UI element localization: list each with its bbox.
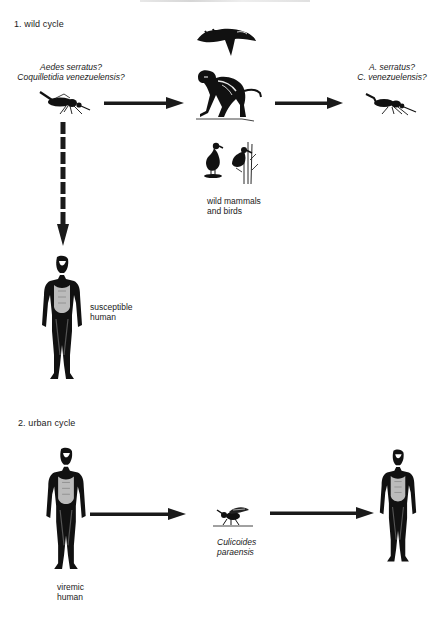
human-figure-icon [378, 447, 418, 567]
susceptible-label-line1: susceptible [90, 302, 133, 312]
dashed-arrow-vector-to-human [56, 122, 70, 252]
hosts-label: wild mammals and birds [207, 196, 261, 216]
viremic-human-label: viremic human [57, 582, 84, 602]
arrow-midge-to-human [270, 507, 374, 519]
mosquito-icon [364, 92, 420, 116]
viremic-label-line1: viremic [57, 582, 84, 592]
mosquito-icon [38, 90, 94, 116]
vector-right-label: A. serratus? C. venezuelensis? [352, 62, 432, 82]
midge-label: Culicoides paraensis [217, 537, 256, 557]
bird-icon [203, 142, 227, 178]
human-figure-icon [40, 255, 84, 383]
monkey-icon [194, 67, 264, 123]
cropped-header-line [140, 0, 310, 2]
wild-cycle-label: 1. wild cycle [14, 19, 64, 29]
human-figure-icon [44, 447, 88, 573]
midge-label-line1: Culicoides [217, 537, 256, 547]
hosts-label-line2: and birds [207, 206, 261, 216]
susceptible-label-line2: human [90, 312, 133, 322]
hosts-label-line1: wild mammals [207, 196, 261, 206]
arrow-vector-to-hosts [104, 97, 184, 109]
arrow-human-to-midge [90, 508, 186, 520]
urban-cycle-label: 2. urban cycle [18, 418, 75, 428]
midge-label-line2: paraensis [217, 547, 256, 557]
vector-right-label-line1: A. serratus? [352, 62, 432, 72]
susceptible-human-label: susceptible human [90, 302, 133, 322]
vector-left-label: Aedes serratus? Coquilletidia venezuelen… [6, 62, 136, 82]
vector-right-label-line2: C. venezuelensis? [352, 72, 432, 82]
vector-left-label-line2: Coquilletidia venezuelensis? [6, 72, 136, 82]
viremic-label-line2: human [57, 592, 84, 602]
arrow-hosts-to-vector [275, 97, 343, 109]
vector-left-label-line1: Aedes serratus? [6, 62, 136, 72]
midge-icon [213, 506, 253, 528]
sloth-icon [195, 26, 257, 58]
heron-in-reeds-icon [230, 140, 260, 184]
